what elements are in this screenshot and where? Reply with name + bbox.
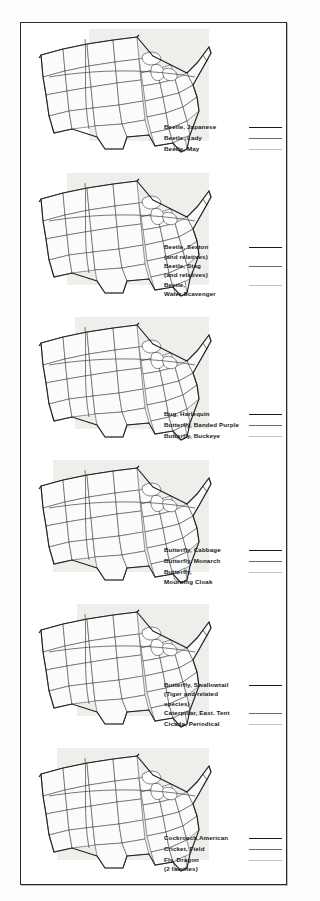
legend-line-swatch-light (249, 719, 282, 728)
legend-entry: Beetle, Lady (164, 133, 282, 144)
legend-entry-label: Beetle, Japanese (164, 122, 249, 131)
legend-line-swatch-medium (249, 556, 282, 565)
legend-entry: Butterfly, Cabbage (164, 545, 282, 556)
map-legend: Cockroach,AmericanCricket, FieldFly, Dra… (164, 833, 282, 874)
legend-entry-label: Cricket, Field (164, 844, 249, 853)
map-legend: Butterfly, CabbageButterfly, MonarchButt… (164, 545, 282, 586)
legend-entry-label: Fly, Dragon (2 families) (164, 855, 249, 874)
legend-line-swatch-light (249, 567, 282, 576)
legend-line-swatch-medium (249, 708, 282, 717)
legend-line-swatch-heavy (249, 122, 282, 131)
map-legend: Bug, HarlequinButterfly, Banded PurpleBu… (164, 409, 282, 442)
legend-entry: Cockroach,American (164, 833, 282, 844)
map-panel: Beetle, Sexton (and relatives)Beetle, St… (21, 167, 286, 311)
legend-entry: Butterfly, Mourning Cloak (164, 567, 282, 586)
legend-entry-label: Beetle, Stag (and relatives) (164, 261, 249, 280)
legend-entry: Cicada, Periodical (164, 719, 282, 730)
legend-entry-label: Butterfly, Buckeye (164, 431, 249, 440)
legend-entry: Caterpillar, East. Tent (164, 708, 282, 719)
legend-entry: Beetle, Sexton (and relatives) (164, 242, 282, 261)
legend-entry: Beetle, Water Scavenger (164, 280, 282, 299)
legend-line-swatch-light (249, 431, 282, 440)
legend-entry-label: Cicada, Periodical (164, 719, 249, 728)
map-panel: Butterfly, Swallowtail (Tiger and relate… (21, 598, 286, 742)
map-legend: Butterfly, Swallowtail (Tiger and relate… (164, 680, 282, 730)
legend-entry: Butterfly, Swallowtail (Tiger and relate… (164, 680, 282, 708)
map-legend: Beetle, Sexton (and relatives)Beetle, St… (164, 242, 282, 298)
legend-entry-label: Butterfly, Banded Purple (164, 420, 249, 429)
legend-entry-label: Beetle, Water Scavenger (164, 280, 249, 299)
legend-entry-label: Butterfly, Mourning Cloak (164, 567, 249, 586)
map-panel: Butterfly, CabbageButterfly, MonarchButt… (21, 454, 286, 598)
legend-entry: Butterfly, Buckeye (164, 431, 282, 442)
legend-line-swatch-light (249, 280, 282, 289)
legend-entry: Fly, Dragon (2 families) (164, 855, 282, 874)
legend-line-swatch-heavy (249, 545, 282, 554)
legend-entry-label: Beetle, Lady (164, 133, 249, 142)
legend-line-swatch-medium (249, 261, 282, 270)
legend-entry-label: Butterfly, Cabbage (164, 545, 249, 554)
legend-entry: Beetle, Stag (and relatives) (164, 261, 282, 280)
legend-entry-label: Butterfly, Swallowtail (Tiger and relate… (164, 680, 249, 708)
legend-line-swatch-heavy (249, 680, 282, 689)
legend-line-swatch-light (249, 144, 282, 153)
legend-line-swatch-light (249, 855, 282, 864)
legend-entry: Butterfly, Monarch (164, 556, 282, 567)
legend-line-swatch-heavy (249, 833, 282, 842)
legend-entry: Bug, Harlequin (164, 409, 282, 420)
map-panel: Beetle, JapaneseBeetle, LadyBeetle, May (21, 23, 286, 167)
legend-line-swatch-medium (249, 844, 282, 853)
legend-entry-label: Cockroach,American (164, 833, 249, 842)
legend-entry: Butterfly, Banded Purple (164, 420, 282, 431)
map-panel-list: Beetle, JapaneseBeetle, LadyBeetle, May (21, 23, 286, 886)
legend-entry-label: Beetle, Sexton (and relatives) (164, 242, 249, 261)
legend-line-swatch-heavy (249, 409, 282, 418)
map-panel: Cockroach,AmericanCricket, FieldFly, Dra… (21, 742, 286, 886)
legend-line-swatch-medium (249, 133, 282, 142)
legend-entry: Cricket, Field (164, 844, 282, 855)
legend-line-swatch-medium (249, 420, 282, 429)
plate-frame: Beetle, JapaneseBeetle, LadyBeetle, May (20, 22, 287, 885)
map-legend: Beetle, JapaneseBeetle, LadyBeetle, May (164, 122, 282, 155)
map-panel: Bug, HarlequinButterfly, Banded PurpleBu… (21, 311, 286, 455)
legend-entry-label: Butterfly, Monarch (164, 556, 249, 565)
legend-entry-label: Bug, Harlequin (164, 409, 249, 418)
legend-entry: Beetle, May (164, 144, 282, 155)
legend-line-swatch-heavy (249, 242, 282, 251)
legend-entry: Beetle, Japanese (164, 122, 282, 133)
legend-entry-label: Caterpillar, East. Tent (164, 708, 249, 717)
legend-entry-label: Beetle, May (164, 144, 249, 153)
